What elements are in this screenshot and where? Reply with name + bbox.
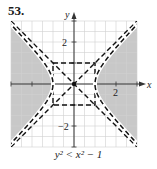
y-axis-arrow — [72, 12, 77, 19]
y-tick-label: 2 — [62, 37, 67, 48]
hyperbola-graph: xy22−2 — [0, 0, 157, 169]
y-axis-label: y — [64, 9, 70, 20]
x-axis-arrow — [139, 82, 146, 87]
origin-point — [72, 82, 76, 86]
x-tick-label: 2 — [113, 87, 118, 98]
inequality-caption: y² < x² − 1 — [0, 148, 157, 160]
x-axis-label: x — [146, 79, 152, 90]
y-tick-label: −2 — [58, 121, 69, 132]
